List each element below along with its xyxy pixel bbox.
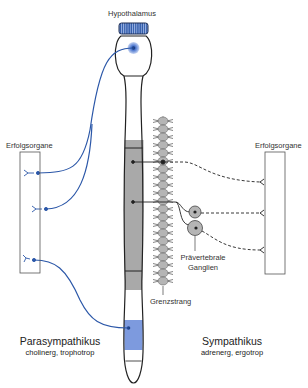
effector-organs-left-label: Erfolgsorgane bbox=[6, 141, 53, 150]
sympathetic-caption: Sympathikus adrenerg, ergotrop bbox=[187, 335, 277, 357]
sympathetic-trunk-chain bbox=[153, 116, 173, 295]
spinal-cord bbox=[115, 36, 151, 383]
prevertebral-ganglia bbox=[188, 206, 203, 251]
parasympathetic-caption: Parasympathikus cholinerg, trophotrop bbox=[10, 335, 110, 357]
effector-organs-left-box bbox=[20, 152, 40, 273]
parasympathetic-terminals bbox=[23, 170, 48, 262]
sympathetic-terminals bbox=[260, 179, 264, 253]
hypothalamus-cap bbox=[119, 23, 148, 34]
prevertebral-ganglia-label: Prävertebrale Ganglien bbox=[180, 253, 226, 272]
sympathetic-postganglionic bbox=[165, 162, 260, 250]
parasympathetic-pathways bbox=[34, 48, 134, 328]
hypothalamus-label: Hypothalamus bbox=[108, 9, 156, 18]
sympathetic-trunk-label: Grenzstrang bbox=[150, 297, 191, 306]
effector-organs-right-label: Erfolgsorgane bbox=[255, 141, 302, 150]
autonomic-nervous-system-diagram bbox=[0, 0, 308, 388]
effector-organs-right-box bbox=[265, 152, 285, 274]
